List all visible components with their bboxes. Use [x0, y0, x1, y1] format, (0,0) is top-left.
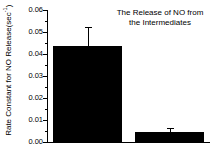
y-axis-label-text: Rate Constant for NO Release(sec [4, 12, 13, 136]
y-axis-tick-label: 0.03 [28, 72, 43, 80]
y-axis-line [47, 10, 48, 143]
y-axis-minor-tick [45, 21, 47, 22]
y-axis-major-tick [43, 98, 47, 99]
y-axis-tick-label: 0.01 [28, 116, 43, 124]
y-axis-tick-label: 0.05 [28, 28, 43, 36]
y-axis-minor-tick [45, 65, 47, 66]
y-axis-major-tick [43, 120, 47, 121]
chart-title: The Release of NO fromthe Intermediates [104, 8, 216, 28]
chart-title-line: The Release of NO from [104, 8, 216, 18]
y-axis-minor-tick [45, 43, 47, 44]
y-axis-label: Rate Constant for NO Release(sec-1) [3, 6, 13, 136]
y-axis-tick-label: 0.02 [28, 94, 43, 102]
y-axis-major-tick [43, 54, 47, 55]
plot-area [47, 10, 210, 143]
x-axis-tick-label: R-state [135, 137, 204, 145]
x-axis-tick-label: T-state [53, 137, 122, 145]
y-axis-minor-tick [45, 87, 47, 88]
y-axis-label-superscript: -1 [2, 7, 8, 12]
y-axis-label-suffix: ) [4, 5, 13, 8]
bar [53, 46, 122, 142]
y-axis-major-tick [43, 10, 47, 11]
y-axis-major-tick [43, 32, 47, 33]
y-axis-major-tick [43, 76, 47, 77]
chart-figure: Rate Constant for NO Release(sec-1) 0.00… [0, 0, 220, 163]
y-axis-tick-label: 0.06 [28, 6, 43, 14]
y-axis-tick-label: 0.00 [28, 138, 43, 146]
error-bar-cap [85, 27, 92, 28]
y-axis-major-tick [43, 142, 47, 143]
chart-title-line: the Intermediates [104, 18, 216, 28]
y-axis-tick-labels: 0.000.010.020.030.040.050.06 [14, 0, 43, 163]
error-bar-line [88, 27, 89, 47]
error-bar-cap [167, 128, 174, 129]
y-axis-tick-label: 0.04 [28, 50, 43, 58]
y-axis-minor-tick [45, 131, 47, 132]
y-axis-minor-tick [45, 109, 47, 110]
